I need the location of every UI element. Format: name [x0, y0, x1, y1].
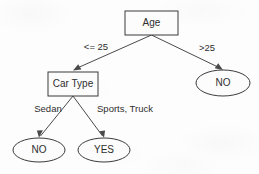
node-label-no-left: NO: [32, 144, 47, 155]
node-label-no-right: NO: [216, 77, 231, 88]
edge-label-age-gt25: >25: [199, 42, 215, 53]
arrowhead-cartype-sportstruck: [99, 130, 105, 137]
node-label-cartype: Car Type: [53, 78, 94, 89]
edge-label-cartype-sportstruck: Sports, Truck: [97, 103, 153, 114]
arrowhead-age-gt25: [215, 63, 223, 70]
edge-label-cartype-sedan: Sedan: [34, 103, 61, 114]
node-label-yes: YES: [94, 144, 114, 155]
edge-label-age-le25: <= 25: [84, 41, 108, 52]
diagram-canvas: <= 25 >25 Sedan Sports, Truck Age Car Ty…: [0, 0, 259, 174]
arrowhead-age-le25: [73, 64, 81, 70]
node-no-right[interactable]: NO: [196, 70, 250, 96]
node-age[interactable]: Age: [125, 11, 178, 35]
decision-tree-diagram: <= 25 >25 Sedan Sports, Truck Age Car Ty…: [0, 0, 259, 174]
node-yes[interactable]: YES: [78, 138, 130, 162]
node-label-age: Age: [143, 17, 161, 28]
node-cartype[interactable]: Car Type: [48, 72, 98, 96]
node-no-left[interactable]: NO: [13, 138, 65, 162]
